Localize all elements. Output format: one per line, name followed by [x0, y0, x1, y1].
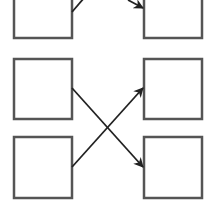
arrow-top-right-in: [128, 0, 143, 8]
box-top-right: [144, 0, 202, 38]
box-bottom-left: [14, 137, 72, 198]
diagram-canvas: [0, 0, 221, 204]
box-middle-right: [144, 59, 202, 119]
box-bottom-right: [144, 137, 202, 198]
box-top-left: [14, 0, 72, 38]
arrow-top-left-out: [72, 0, 84, 12]
box-middle-left: [14, 59, 72, 119]
